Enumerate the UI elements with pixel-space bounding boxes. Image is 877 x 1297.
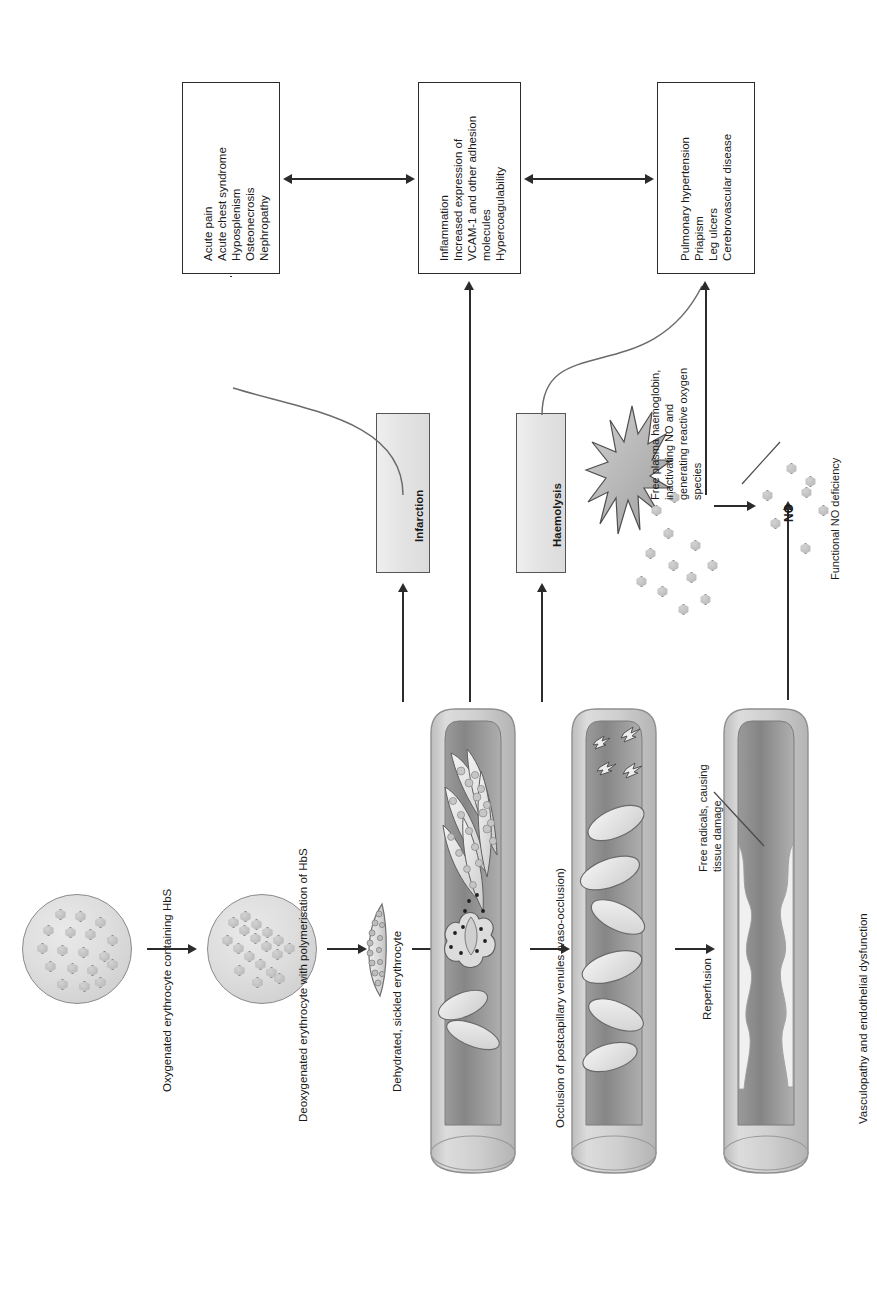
outcome-line: Pulmonary hypertension — [678, 137, 693, 261]
outcome-line: Acute pain — [201, 207, 216, 261]
arrowhead-left-box2 — [524, 174, 533, 184]
annotation-free-plasma-line4: species — [690, 463, 705, 500]
outcome-line: Increased expression of — [451, 139, 466, 261]
outcome-line: Acute chest syndrome — [215, 147, 230, 261]
vessel-reperfusion — [566, 705, 666, 1180]
outcome-line: Osteonecrosis — [243, 187, 258, 261]
outcome-line: molecules — [479, 209, 494, 261]
arrowhead-haemolysis-bottom — [537, 583, 547, 592]
arrowhead-vessel2-vessel3 — [706, 944, 715, 954]
annotation-no-label: NO — [782, 504, 798, 522]
arrowhead-stage1-stage2 — [188, 944, 197, 954]
arrowhead-haemoglobin-to-no — [747, 501, 756, 511]
stub-under-box1 — [230, 276, 232, 277]
outcome-line: Hypercoagulability — [493, 167, 508, 261]
connector-stage2-stage3 — [327, 948, 359, 950]
connector-box2-box3 — [533, 178, 645, 180]
annotation-free-plasma-line1: Free plasma haemoglobin, — [648, 370, 663, 500]
process-box-haemolysis: Haemolysis — [516, 413, 566, 573]
stage-label-vasculopathy: Vasculopathy and endothelial dysfunction — [856, 913, 871, 1124]
connector-vessel2-to-haemolysis — [541, 592, 543, 702]
connector-vessel1-to-inflammation — [469, 290, 471, 702]
outcome-line: Hyposplenism — [229, 189, 244, 261]
outcome-box-haemolysis-endothelial: Pulmonary hypertension Priapism Leg ulce… — [657, 82, 755, 274]
outcome-box-inflammation-adhesion: Inflammation Increased expression of VCA… — [418, 82, 521, 274]
stage-label-reperfusion: Reperfusion — [700, 958, 715, 1020]
vessel-vaso-occlusion — [425, 705, 525, 1180]
arrowhead-endothelial-bottom — [700, 281, 710, 290]
outcome-line: Nephropathy — [257, 195, 272, 261]
connector-stage1-stage2 — [147, 948, 189, 950]
outcome-line: Priapism — [692, 216, 707, 261]
connector-vessel2-vessel3 — [675, 948, 707, 950]
arrowhead-right-box2 — [406, 174, 415, 184]
annotation-free-plasma-line2: inactivating NO and — [662, 404, 677, 500]
outcome-line: Inflammation — [437, 195, 452, 261]
annotation-free-plasma-line3: generating reactive oxygen — [676, 368, 691, 500]
outcome-box-clinical-vaso-occlusive: Acute pain Acute chest syndrome Hyposple… — [182, 82, 280, 274]
stage-label-sickled-erythrocyte: Dehydrated, sickled erythrocyte — [390, 931, 405, 1092]
leader-line-no — [740, 440, 800, 500]
leader-line-free-radicals — [712, 790, 772, 852]
stage-label-deoxygenated-erythrocyte: Deoxygenated erythrocyte with polymerisa… — [296, 848, 311, 1122]
outcome-line: Cerebrovascular disease — [720, 134, 735, 261]
arrowhead-left-box1 — [283, 174, 292, 184]
curve-infarction-to-clinical — [225, 270, 425, 500]
outcome-line: Leg ulcers — [706, 208, 721, 261]
oxygenated-erythrocyte — [22, 894, 132, 1004]
stage-label-oxygenated-erythrocyte: Oxygenated erythrocyte containing HbS — [160, 889, 175, 1092]
annotation-free-radicals-line1: Free radicals, causing — [696, 764, 711, 872]
figure-canvas: Acute pain Acute chest syndrome Hyposple… — [0, 0, 877, 1297]
vessel-vasculopathy — [718, 705, 818, 1180]
connector-box1-box2 — [292, 178, 406, 180]
annotation-functional-no-deficiency: Functional NO deficiency — [828, 458, 843, 580]
connector-haemoglobin-to-no — [714, 505, 748, 507]
arrowhead-right-box3 — [645, 174, 654, 184]
arrowhead-infarction-bottom — [398, 583, 408, 592]
connector-no-to-endothelial — [705, 290, 707, 495]
connector-vessel1-to-infarction — [402, 592, 404, 702]
connector-vessel3-to-no — [787, 510, 789, 700]
arrowhead-inflammation-bottom — [464, 281, 474, 290]
process-box-label: Haemolysis — [550, 483, 565, 547]
outcome-line: VCAM-1 and other adhesion — [465, 116, 480, 261]
connector-vessel1-vessel2 — [530, 948, 562, 950]
